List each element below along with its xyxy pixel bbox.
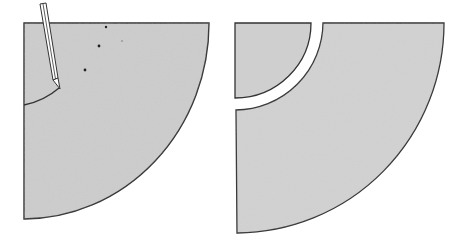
dot <box>121 40 123 42</box>
figure-canvas <box>0 0 470 244</box>
dot <box>105 26 107 28</box>
dot <box>84 69 87 72</box>
dot <box>98 45 101 48</box>
panel-step-2 <box>235 23 444 233</box>
panel-step-1 <box>24 3 209 219</box>
